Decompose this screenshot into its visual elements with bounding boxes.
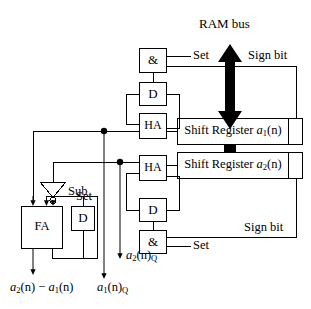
and-gate-top-label: &: [139, 53, 167, 66]
junction-dot-a1: [101, 128, 107, 134]
wire-ha-bottom-feedback-right: [167, 176, 180, 210]
shift-register-a1-label: Shift Register a1(n): [178, 124, 288, 138]
ram-bus-label: RAM bus: [199, 17, 250, 30]
a2q-qsub: Q: [151, 253, 157, 263]
shift-register-a2-label: Shift Register a2(n): [178, 158, 288, 172]
sr2-arg: (n): [267, 157, 282, 171]
a2q-arg: (n): [137, 248, 152, 262]
junction-dot-a2: [117, 159, 123, 165]
a1q-arg: (n): [108, 280, 123, 294]
set-top-label: Set: [193, 49, 209, 62]
circuit-diagram: RAM bus Sign bit Sign bit Set Set Set Su…: [0, 0, 311, 309]
diff-mid: (n) −: [21, 280, 49, 294]
and-gate-bottom-label: &: [139, 235, 167, 248]
output-difference-label: a2(n) − a1(n): [10, 281, 73, 295]
sign-bit-top-label: Sign bit: [248, 49, 287, 62]
full-adder-label: FA: [21, 220, 63, 233]
shift-register-a2-tail-cell: [289, 153, 303, 179]
d-latch-top-label: D: [139, 87, 167, 100]
ram-bus-arrow: [218, 44, 242, 129]
d-latch-bottom-label: D: [139, 203, 167, 216]
inverter-triangle: [41, 183, 66, 198]
sign-bit-bottom-label: Sign bit: [244, 221, 283, 234]
sub-label: Sub: [68, 185, 87, 198]
sr1-prefix: Shift Register: [184, 123, 256, 137]
sr1-arg: (n): [267, 123, 282, 137]
shift-register-a1-tail-cell: [289, 119, 303, 145]
shift-register-interconnect: [224, 144, 236, 153]
output-a1-q-label: a1(n)Q: [97, 281, 128, 295]
output-a2-q-label: a2(n)Q: [126, 249, 157, 263]
half-adder-bottom-label: HA: [139, 161, 167, 173]
diff-tail: (n): [59, 280, 74, 294]
sr2-prefix: Shift Register: [184, 157, 256, 171]
wire-junction2-to-inverter: [53, 162, 120, 182]
wire-d-top-feedback-left: [126, 94, 140, 124]
half-adder-top-label: HA: [139, 119, 167, 131]
d-latch-fa-label: D: [71, 211, 95, 224]
a1q-qsub: Q: [122, 285, 128, 295]
set-bottom-label: Set: [193, 239, 209, 252]
wire-ha-bottom-feedback-left: [126, 173, 140, 210]
